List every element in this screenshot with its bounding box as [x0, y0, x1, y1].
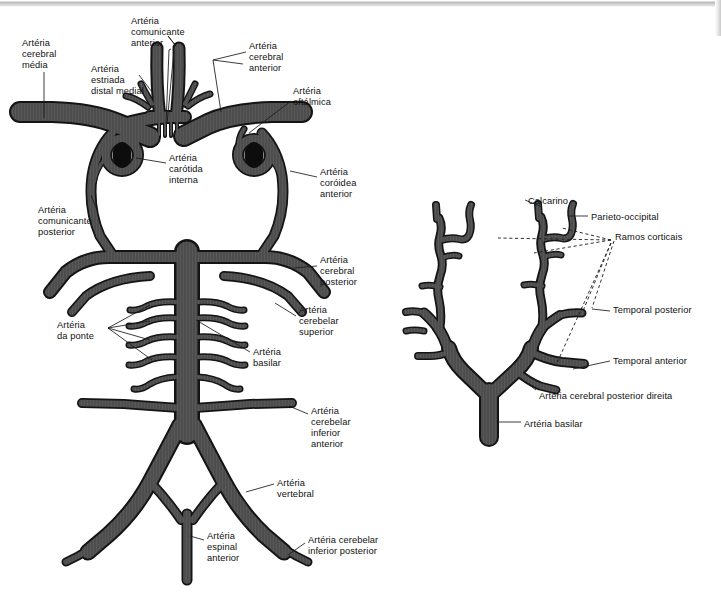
- label-arteria-basilar: Artéria basilar: [253, 347, 281, 369]
- ramos-corticais-dashed-leaders: [498, 228, 614, 363]
- label-parieto-occipital: Parieto-occipital: [591, 212, 659, 223]
- label-calcarino: Calcarino: [528, 196, 568, 207]
- label-temporal-posterior: Temporal posterior: [613, 305, 692, 316]
- carotid-lumen-right: [245, 142, 264, 168]
- label-arteria-carotida-interna: Artéria carótida interna: [169, 153, 203, 186]
- figure-caption: [0, 594, 721, 606]
- willis-circle-group: [20, 48, 324, 580]
- label-arteria-oftalmica: Artéria oftálmica: [293, 86, 331, 108]
- label-arteria-comunicante-anterior: Artéria comunicante anterior: [131, 16, 185, 49]
- figure-page: Artéria cerebral média Artéria comunican…: [0, 0, 721, 606]
- label-arteria-vertebral: Artéria vertebral: [277, 478, 314, 500]
- carotid-lumen-left: [113, 142, 132, 168]
- label-arteria-cerebral-posterior-direita: Artéria cerebral posterior direita: [539, 391, 672, 402]
- label-arteria-basilar-direita: Artéria basilar: [524, 419, 583, 430]
- label-arteria-da-ponte: Artéria da ponte: [57, 320, 94, 342]
- label-arteria-cerebral-posterior: Artéria cerebral posterior: [320, 255, 357, 288]
- label-arteria-estriada-distal-medial: Artéria estriada distal medial: [91, 64, 144, 97]
- label-arteria-comunicante-posterior: Artéria comunicante posterior: [38, 205, 92, 238]
- label-ramos-corticais: Ramos corticais: [615, 232, 683, 243]
- label-arteria-cerebral-media: Artéria cerebral média: [22, 38, 56, 71]
- label-arteria-cerebral-anterior: Artéria cerebral anterior: [249, 41, 283, 74]
- label-arteria-cerebelar-inferior-posterior: Artéria cerebelar inferior posterior: [308, 535, 378, 557]
- label-arteria-coroidea-anterior: Artéria coróidea anterior: [320, 167, 356, 200]
- label-arteria-cerebelar-superior: Artéria cerebelar superior: [299, 305, 339, 338]
- label-arteria-cerebelar-inferior-anterior: Artéria cerebelar inferior anterior: [311, 406, 351, 450]
- label-temporal-anterior: Temporal anterior: [613, 356, 687, 367]
- label-arteria-espinal-anterior: Artéria espinal anterior: [207, 531, 239, 564]
